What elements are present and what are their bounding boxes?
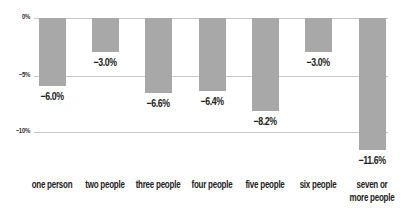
value-label: −6.0% — [32, 90, 72, 102]
y-tick-minus5: −5% — [5, 71, 31, 78]
value-label: −6.4% — [192, 95, 232, 107]
value-label: −11.6% — [352, 154, 392, 166]
x-label-one-person: one person — [28, 178, 76, 191]
x-label-three-people: three people — [134, 178, 182, 191]
x-label-two-people: two people — [81, 178, 129, 191]
bar-one-person — [39, 18, 66, 86]
x-label-four-people: four people — [188, 178, 236, 191]
gridline-minus10 — [34, 132, 388, 133]
x-label-seven-or-more-people: seven or more people — [348, 178, 396, 204]
bar-seven-or-more-people — [359, 18, 386, 150]
bar-three-people — [145, 18, 172, 93]
value-label: −3.0% — [298, 56, 338, 68]
x-label-six-people: six people — [294, 178, 342, 191]
y-tick-minus10: −10% — [5, 127, 31, 134]
x-label-five-people: five people — [241, 178, 289, 191]
x-label-line-1: seven or — [348, 178, 396, 191]
y-tick-0: 0% — [5, 13, 31, 20]
value-label: −3.0% — [85, 56, 125, 68]
bar-two-people — [92, 18, 119, 52]
x-label-line-2: more people — [348, 191, 396, 204]
value-label: −8.2% — [245, 115, 285, 127]
bar-four-people — [199, 18, 226, 91]
bar-five-people — [252, 18, 279, 111]
value-label: −6.6% — [138, 97, 178, 109]
bar-six-people — [305, 18, 332, 52]
bar-chart: 0% −5% −10% −6.0%−3.0%−6.6%−6.4%−8.2%−3.… — [0, 0, 406, 208]
